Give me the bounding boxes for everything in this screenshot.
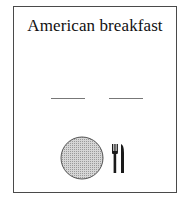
card: American breakfast bbox=[13, 6, 177, 193]
knife-icon bbox=[121, 144, 124, 173]
plate-icon bbox=[61, 137, 103, 179]
place-setting bbox=[14, 7, 178, 194]
fork-icon bbox=[112, 144, 118, 173]
